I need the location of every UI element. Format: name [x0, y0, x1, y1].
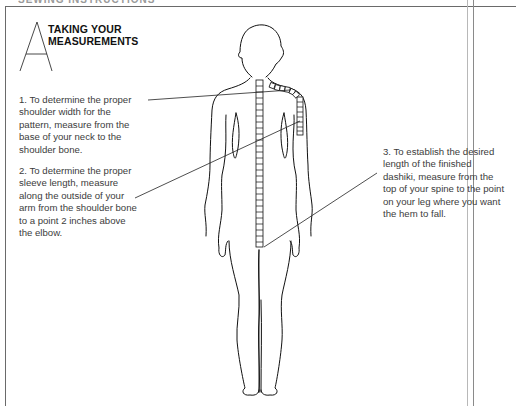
- figure-leg-left: [229, 241, 259, 395]
- measuring-tape-spine: [256, 80, 263, 247]
- leader-line-length: [264, 173, 377, 247]
- figure-arm-inner-left: [218, 115, 228, 257]
- figure-head: [239, 25, 284, 77]
- leader-line-sleeve: [135, 121, 300, 198]
- measuring-tape-sleeve: [297, 97, 303, 135]
- figure-leg-right: [261, 241, 291, 395]
- figure-torso-left: [205, 78, 250, 236]
- figure-torso-right: [268, 78, 312, 236]
- measurement-figure-illustration: [0, 0, 516, 406]
- figure-arm-inner-right: [290, 115, 300, 257]
- figure-back-dart-right: [281, 113, 288, 158]
- figure-leg-center: [259, 250, 260, 392]
- leader-line-shoulder: [148, 90, 290, 100]
